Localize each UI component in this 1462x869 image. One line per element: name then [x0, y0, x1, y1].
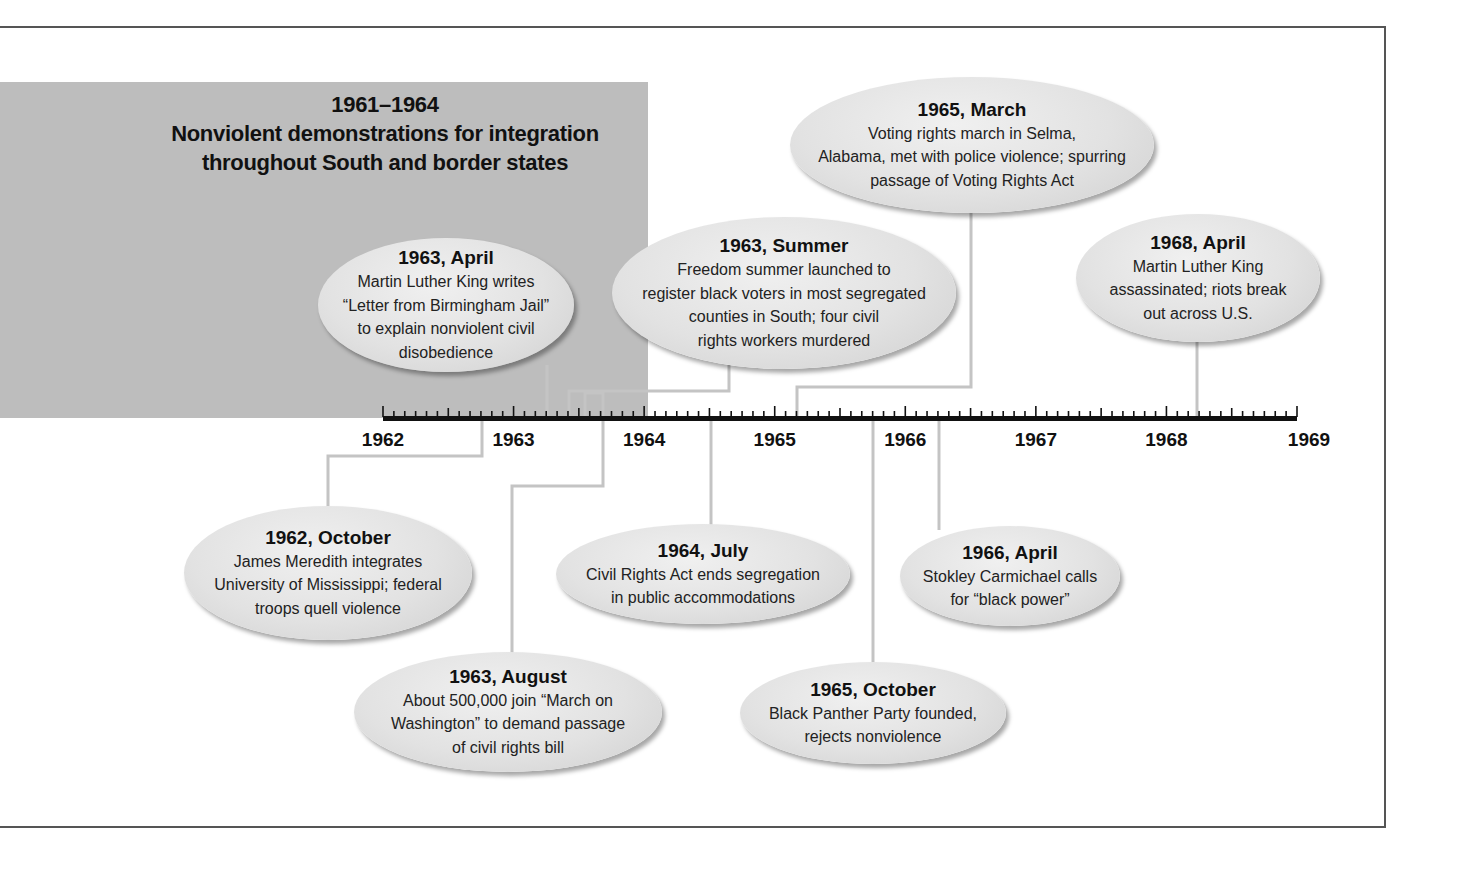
event-date: 1962, October — [265, 526, 391, 550]
event-date: 1965, March — [918, 98, 1027, 122]
axis-year-1962: 1962 — [362, 429, 404, 451]
event-description: Civil Rights Act ends segregation in pub… — [586, 563, 820, 610]
event-1963-august: 1963, August About 500,000 join “March o… — [354, 652, 662, 772]
event-date: 1963, August — [449, 665, 567, 689]
timeline-axis — [383, 406, 1297, 421]
event-1964-july: 1964, July Civil Rights Act ends segrega… — [556, 524, 850, 624]
axis-year-1964: 1964 — [623, 429, 665, 451]
event-date: 1964, July — [658, 539, 749, 563]
event-description: About 500,000 join “March on Washington”… — [391, 689, 625, 760]
axis-year-1966: 1966 — [884, 429, 926, 451]
event-1966-april: 1966, April Stokley Carmichael calls for… — [900, 526, 1120, 626]
event-1962-october: 1962, October James Meredith integrates … — [184, 506, 472, 640]
event-1968-april: 1968, April Martin Luther King assassina… — [1076, 214, 1320, 342]
axis-year-1967: 1967 — [1015, 429, 1057, 451]
event-description: Martin Luther King assassinated; riots b… — [1110, 255, 1287, 326]
axis-year-1968: 1968 — [1145, 429, 1187, 451]
event-description: Stokley Carmichael calls for “black powe… — [923, 565, 1097, 612]
event-description: Voting rights march in Selma, Alabama, m… — [818, 122, 1126, 193]
event-date: 1963, Summer — [720, 234, 849, 258]
axis-year-1965: 1965 — [754, 429, 796, 451]
axis-year-1969: 1969 — [1288, 429, 1330, 451]
event-description: Freedom summer launched to register blac… — [642, 258, 926, 352]
axis-year-1963: 1963 — [492, 429, 534, 451]
event-description: James Meredith integrates University of … — [214, 550, 442, 621]
event-description: Black Panther Party founded, rejects non… — [769, 702, 977, 749]
event-date: 1965, October — [810, 678, 936, 702]
event-date: 1963, April — [398, 246, 493, 270]
event-date: 1968, April — [1150, 231, 1245, 255]
event-date: 1966, April — [962, 541, 1057, 565]
event-1965-october: 1965, October Black Panther Party founde… — [740, 662, 1006, 764]
event-description: Martin Luther King writes “Letter from B… — [343, 270, 549, 364]
event-1963-summer: 1963, Summer Freedom summer launched to … — [612, 217, 956, 369]
timeline-graphics — [0, 0, 1462, 869]
event-1965-march: 1965, March Voting rights march in Selma… — [790, 77, 1154, 213]
event-1963-april: 1963, April Martin Luther King writes “L… — [318, 238, 574, 372]
